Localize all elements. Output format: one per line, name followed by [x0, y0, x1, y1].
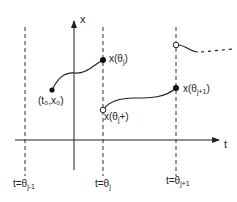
t-axis-label: t	[224, 138, 227, 150]
label-x-theta-j-plus: x(θj+)	[104, 111, 129, 124]
trajectory-segment-2	[104, 88, 176, 109]
trajectory-continuation-dashed	[201, 49, 233, 52]
point-start	[49, 87, 54, 92]
label-theta-j: t=θj	[95, 178, 111, 191]
impulsive-trajectory-diagram: x t (t₀,x₀) x(θj) x(θj+) x(θj+1) t=θj-1 …	[0, 0, 237, 202]
label-x-theta-j: x(θj)	[109, 53, 128, 66]
point-x-theta-j	[100, 57, 106, 63]
trajectory-segment-1	[52, 60, 103, 90]
point-x-theta-j-plus-1	[173, 85, 179, 91]
label-start-point: (t₀,x₀)	[38, 95, 64, 106]
point-next-start-open	[173, 42, 179, 48]
x-axis-label: x	[80, 13, 86, 25]
label-x-theta-j-plus-1: x(θj+1)	[183, 83, 210, 96]
trajectory-segment-3	[178, 45, 198, 52]
label-theta-j-plus-1: t=θj+1	[166, 175, 190, 188]
label-theta-j-minus-1: t=θj-1	[13, 178, 35, 191]
